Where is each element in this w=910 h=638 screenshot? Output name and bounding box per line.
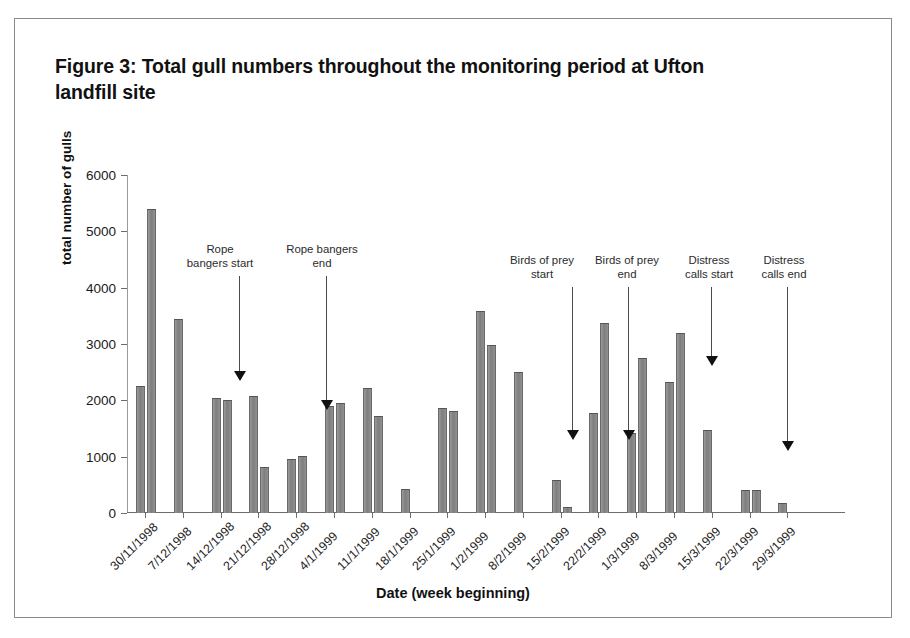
x-axis-tick bbox=[258, 513, 259, 518]
x-axis-tick bbox=[787, 513, 788, 518]
chart-plot-area: 6000500040003000200010000 30/11/19987/12… bbox=[127, 175, 845, 513]
figure-frame: Figure 3: Total gull numbers throughout … bbox=[14, 18, 892, 618]
x-axis-tick bbox=[372, 513, 373, 518]
annotation-arrow-rope-bangers-end bbox=[321, 400, 333, 410]
bar bbox=[487, 345, 496, 513]
bar bbox=[136, 386, 145, 513]
x-axis-title: Date (week beginning) bbox=[15, 585, 891, 601]
annotation-label-birds-of-prey-start: Birds of prey start bbox=[494, 254, 590, 282]
annotation-line-birds-of-prey-end bbox=[628, 287, 629, 430]
bar bbox=[676, 333, 685, 513]
y-axis-tick bbox=[121, 344, 127, 345]
x-axis-tick-label: 8/2/1999 bbox=[485, 529, 529, 573]
bar bbox=[600, 323, 609, 513]
annotation-label-rope-bangers-start: Rope bangers start bbox=[172, 243, 268, 271]
bar bbox=[223, 400, 232, 513]
y-axis-title: total number of gulls bbox=[59, 131, 74, 265]
x-axis-tick bbox=[334, 513, 335, 518]
annotation-line-distress-calls-start bbox=[711, 287, 712, 356]
bar bbox=[627, 433, 636, 513]
x-axis-tick bbox=[410, 513, 411, 518]
y-axis-tick-label: 4000 bbox=[86, 280, 116, 295]
bar bbox=[401, 489, 410, 513]
x-axis-tick bbox=[561, 513, 562, 518]
annotation-line-distress-calls-end bbox=[787, 287, 788, 441]
y-axis-tick-label: 2000 bbox=[86, 393, 116, 408]
x-axis-tick bbox=[750, 513, 751, 518]
y-axis-tick-label: 3000 bbox=[86, 337, 116, 352]
y-axis-tick bbox=[121, 457, 127, 458]
bar bbox=[147, 209, 156, 513]
annotation-arrow-distress-calls-end bbox=[782, 441, 794, 451]
bar bbox=[249, 396, 258, 513]
annotation-arrow-birds-of-prey-start bbox=[567, 430, 579, 440]
x-axis-tick bbox=[598, 513, 599, 518]
y-axis-tick bbox=[121, 231, 127, 232]
annotation-arrow-distress-calls-start bbox=[706, 356, 718, 366]
annotation-arrow-rope-bangers-start bbox=[234, 371, 246, 381]
y-axis-tick bbox=[121, 400, 127, 401]
page-title: Figure 3: Total gull numbers throughout … bbox=[55, 53, 745, 106]
x-axis-tick bbox=[183, 513, 184, 518]
bar bbox=[325, 406, 334, 513]
x-axis-tick bbox=[523, 513, 524, 518]
bar bbox=[514, 372, 523, 513]
bar bbox=[260, 467, 269, 513]
annotation-label-rope-bangers-end: Rope bangers end bbox=[274, 243, 370, 271]
annotation-line-birds-of-prey-start bbox=[572, 287, 573, 430]
bar bbox=[287, 459, 296, 513]
bar bbox=[552, 480, 561, 513]
x-axis-tick bbox=[674, 513, 675, 518]
bar bbox=[449, 411, 458, 513]
bar bbox=[212, 398, 221, 513]
x-axis-tick bbox=[447, 513, 448, 518]
x-axis-tick bbox=[636, 513, 637, 518]
x-axis-tick bbox=[145, 513, 146, 518]
y-axis-tick-label: 0 bbox=[108, 506, 116, 521]
bar bbox=[752, 490, 761, 513]
x-axis-tick bbox=[296, 513, 297, 518]
bar bbox=[638, 358, 647, 513]
bar bbox=[563, 507, 572, 513]
bar bbox=[589, 413, 598, 513]
y-axis-tick-label: 6000 bbox=[86, 168, 116, 183]
annotation-line-rope-bangers-end bbox=[326, 276, 327, 400]
bar bbox=[665, 382, 674, 513]
bar bbox=[741, 490, 750, 513]
y-axis-tick-label: 1000 bbox=[86, 449, 116, 464]
annotation-line-rope-bangers-start bbox=[239, 276, 240, 371]
bar bbox=[476, 311, 485, 513]
bar bbox=[363, 388, 372, 513]
bar bbox=[374, 416, 383, 513]
bar bbox=[703, 430, 712, 513]
bar bbox=[174, 319, 183, 513]
x-axis-tick bbox=[485, 513, 486, 518]
y-axis-tick bbox=[121, 288, 127, 289]
bar bbox=[438, 408, 447, 513]
y-axis-tick bbox=[121, 513, 127, 514]
x-axis-tick bbox=[221, 513, 222, 518]
bar bbox=[778, 503, 787, 513]
x-axis-tick bbox=[712, 513, 713, 518]
y-axis-tick-label: 5000 bbox=[86, 224, 116, 239]
bar bbox=[298, 456, 307, 513]
annotation-arrow-birds-of-prey-end bbox=[623, 430, 635, 440]
bar bbox=[336, 403, 345, 513]
x-axis-tick-label: 8/3/1999 bbox=[637, 529, 681, 573]
y-axis-line bbox=[127, 175, 128, 513]
y-axis-tick bbox=[121, 175, 127, 176]
annotation-label-distress-calls-end: Distress calls end bbox=[736, 254, 832, 282]
